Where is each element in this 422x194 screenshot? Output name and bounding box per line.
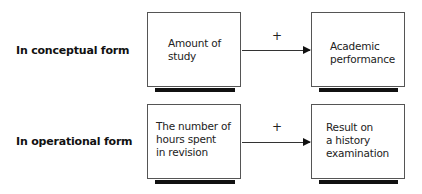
box-history-exam-result: Result on a history examination: [311, 104, 405, 179]
box-academic-performance: Academic performance: [311, 12, 405, 87]
row-label-operational: In operational form: [16, 135, 132, 148]
box-shadow-bar: [155, 180, 235, 184]
box-hours-spent-in-revision: The number of hours spent in revision: [147, 104, 241, 179]
row-label-conceptual: In conceptual form: [16, 44, 129, 57]
box-text: The number of hours spent in revision: [156, 120, 231, 159]
box-shadow-bar: [319, 88, 398, 92]
positive-relation-sign: +: [272, 120, 282, 134]
positive-relation-sign: +: [272, 29, 282, 43]
box-shadow-bar: [319, 180, 398, 184]
box-text: Amount of study: [168, 37, 221, 63]
arrow-right-icon: [242, 142, 310, 143]
arrow-right-icon: [242, 50, 310, 51]
box-text: Result on a history examination: [326, 121, 389, 160]
box-text: Academic performance: [330, 40, 395, 66]
box-shadow-bar: [155, 88, 235, 92]
box-amount-of-study: Amount of study: [147, 12, 241, 87]
